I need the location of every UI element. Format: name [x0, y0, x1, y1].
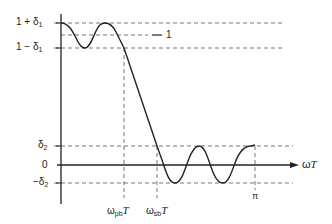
tolerance-lines [54, 23, 293, 198]
x-axis-arrow-icon [290, 162, 299, 168]
label-delta2: δ2 [38, 140, 47, 151]
label-zero: 0 [42, 160, 48, 170]
label-lower-passband: 1 − δ1 [16, 42, 42, 53]
y-ticks [56, 23, 61, 183]
label-neg-delta2: −δ2 [33, 177, 48, 188]
label-pi: π [252, 192, 258, 201]
label-passband-edge: ωpbT [107, 205, 129, 217]
label-stopband-edge: ωsbT [146, 205, 167, 217]
label-unity: 1 [166, 30, 172, 40]
label-upper-passband: 1 + δ1 [16, 17, 42, 28]
label-x-axis: ωT [302, 159, 317, 170]
frequency-response-curve [61, 23, 255, 183]
